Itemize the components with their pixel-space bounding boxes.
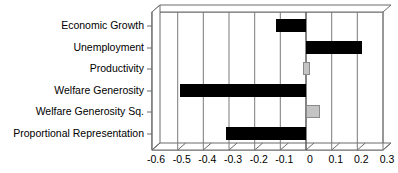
bars-layer <box>0 0 398 173</box>
x-tick-label-0: -0.6 <box>147 153 165 165</box>
bar-unemployment <box>306 41 362 54</box>
bar-welfare-generosity-sq <box>306 105 320 118</box>
x-tick-label-6: 0 <box>307 153 313 165</box>
x-tick-label-8: 0.2 <box>354 153 369 165</box>
bar-proportional-representation <box>226 127 306 140</box>
x-tick-label-5: -0.1 <box>275 153 293 165</box>
x-tick-label-2: -0.4 <box>198 153 216 165</box>
x-axis-tick-labels: -0.6 -0.5 -0.4 -0.3 -0.2 -0.1 0 0.1 0.2 … <box>0 153 398 171</box>
x-tick-label-9: 0.3 <box>380 153 395 165</box>
x-tick-label-3: -0.3 <box>224 153 242 165</box>
x-tick-label-1: -0.5 <box>173 153 191 165</box>
bar-welfare-generosity <box>180 84 306 97</box>
chart-container: Economic Growth Unemployment Productivit… <box>0 0 398 173</box>
bar-productivity <box>303 62 310 75</box>
bar-economic-growth <box>276 19 306 32</box>
x-tick-label-7: 0.1 <box>328 153 343 165</box>
x-tick-label-4: -0.2 <box>250 153 268 165</box>
